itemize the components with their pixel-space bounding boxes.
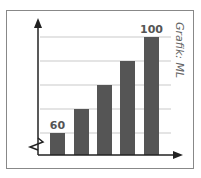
bar bbox=[144, 37, 159, 155]
bar bbox=[74, 109, 89, 155]
data-label: 60 bbox=[50, 119, 66, 132]
data-label: 100 bbox=[140, 23, 163, 36]
bar bbox=[120, 61, 135, 155]
bar-chart: 60100 Grafik: ML bbox=[0, 0, 201, 178]
bar bbox=[50, 133, 65, 155]
x-axis-arrow-icon bbox=[173, 151, 183, 159]
y-axis-arrow-icon bbox=[34, 18, 42, 28]
bar bbox=[97, 85, 112, 155]
bars bbox=[50, 37, 159, 155]
credit-label: Grafik: ML bbox=[173, 22, 186, 78]
axis-break-icon bbox=[30, 138, 43, 150]
